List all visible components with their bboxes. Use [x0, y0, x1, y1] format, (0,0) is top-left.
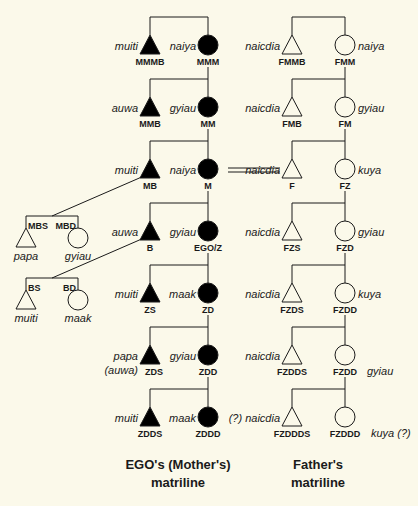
- kin-term: gyiau: [170, 350, 196, 362]
- kin-term: kuya (?): [371, 427, 411, 439]
- kin-term-alt: (auwa): [104, 364, 138, 376]
- kin-term: maak: [65, 312, 92, 324]
- kin-code: ZS: [144, 305, 156, 315]
- kin-code: FZDDDS: [274, 429, 311, 439]
- female-symbol-fm: [335, 97, 355, 117]
- male-symbol-zds: [140, 345, 160, 364]
- kin-code: MBS: [28, 221, 48, 231]
- kin-term: naiya: [170, 40, 196, 52]
- female-symbol-fzdd: [335, 345, 355, 365]
- male-symbol-fmmb: [282, 35, 302, 54]
- kin-term: naiya: [170, 164, 196, 176]
- kin-term: gyiau: [170, 102, 196, 114]
- female-symbol-bd: [68, 290, 88, 310]
- female-symbol-mmm: [198, 35, 218, 55]
- kin-code: FZDD: [333, 367, 357, 377]
- mother-line-caption-2: matriline: [151, 475, 205, 490]
- kin-code: FZ: [340, 181, 351, 191]
- female-symbol-zd: [198, 283, 218, 303]
- male-symbol-fmb: [282, 97, 302, 116]
- kin-term: naicdia: [245, 226, 280, 238]
- kin-code: ZD: [202, 305, 214, 315]
- kin-term: (?) naicdia: [229, 412, 280, 424]
- kin-code: FZD: [336, 243, 354, 253]
- kin-term: papa: [13, 250, 38, 262]
- male-symbol-fzdds: [282, 345, 302, 364]
- kin-code: BD: [63, 283, 76, 293]
- kinship-diagram: muitiMMMBMMMnaiyaauwaMMBMMgyiaumuitiMBMn…: [0, 0, 418, 506]
- kin-term: naiya: [358, 40, 384, 52]
- male-symbol-zdds: [140, 407, 160, 426]
- kin-term: gyiau: [358, 226, 384, 238]
- kin-code: ZDDD: [196, 429, 221, 439]
- kin-term: auwa: [112, 226, 138, 238]
- kin-code: MMMB: [136, 57, 165, 67]
- kin-code: ZDS: [145, 367, 163, 377]
- kin-code: M: [204, 181, 212, 191]
- kin-code: MBD: [56, 221, 77, 231]
- kin-term: gyiau: [65, 250, 91, 262]
- kin-term: gyiau: [367, 365, 393, 377]
- female-symbol-fzdd: [335, 283, 355, 303]
- kin-code: FZDD: [333, 305, 357, 315]
- kin-code: FMM: [335, 57, 356, 67]
- kin-term: muiti: [115, 40, 139, 52]
- kin-code: BS: [28, 283, 41, 293]
- kin-code: FZDS: [280, 305, 304, 315]
- kin-code: MM: [201, 119, 216, 129]
- female-symbol-fz: [335, 159, 355, 179]
- kin-term: muiti: [115, 288, 139, 300]
- female-symbol-zddd: [198, 407, 218, 427]
- female-symbol-m: [198, 159, 218, 179]
- female-symbol-fmm: [335, 35, 355, 55]
- kin-code: MB: [143, 181, 157, 191]
- captions: EGO's (Mother's) matriline Father's matr…: [125, 457, 345, 490]
- kin-term: muiti: [115, 164, 139, 176]
- kin-term: naicdia: [245, 350, 280, 362]
- kin-term: gyiau: [358, 102, 384, 114]
- kin-nodes: muitiMMMBMMMnaiyaauwaMMBMMgyiaumuitiMBMn…: [13, 35, 411, 439]
- female-symbol-ego-z: [198, 221, 218, 241]
- female-symbol-mm: [198, 97, 218, 117]
- kin-term: maak: [169, 288, 196, 300]
- kin-code: FMMB: [279, 57, 306, 67]
- kin-term: naicdia: [245, 288, 280, 300]
- kin-code: ZDDS: [138, 429, 163, 439]
- kin-term: papa: [113, 350, 138, 362]
- kin-code: FZDDD: [330, 429, 361, 439]
- kin-term: kuya: [358, 288, 381, 300]
- kin-term: muiti: [115, 412, 139, 424]
- kin-code: B: [147, 243, 154, 253]
- female-symbol-fzddd: [335, 407, 355, 427]
- kin-term: muiti: [14, 312, 38, 324]
- kin-term: naicdia: [245, 102, 280, 114]
- male-symbol-mmb: [140, 97, 160, 116]
- kin-code: MMM: [197, 57, 220, 67]
- male-symbol-b: [140, 221, 160, 240]
- male-symbol-mmmb: [140, 35, 160, 54]
- female-symbol-fzd: [335, 221, 355, 241]
- kin-term: naicdia: [245, 40, 280, 52]
- cross-link: [52, 176, 144, 216]
- mother-line-caption-1: EGO's (Mother's): [125, 457, 230, 472]
- kin-code: F: [289, 181, 295, 191]
- kin-term: gyiau: [170, 226, 196, 238]
- male-symbol-mb: [140, 159, 160, 178]
- kin-code: FM: [339, 119, 352, 129]
- kin-term: naicdia: [245, 164, 280, 176]
- kin-code: FMB: [282, 119, 302, 129]
- female-symbol-zdd: [198, 345, 218, 365]
- male-symbol-fzds: [282, 283, 302, 302]
- kin-code: MMB: [139, 119, 161, 129]
- male-symbol-f: [282, 159, 302, 178]
- male-symbol-fzddds: [282, 407, 302, 426]
- father-line-caption-1: Father's: [293, 457, 343, 472]
- male-symbol-zs: [140, 283, 160, 302]
- father-line-caption-2: matriline: [291, 475, 345, 490]
- kin-term: auwa: [112, 102, 138, 114]
- kin-code: ZDD: [199, 367, 218, 377]
- kin-code: FZDDS: [277, 367, 307, 377]
- kin-code: EGO/Z: [194, 243, 223, 253]
- female-symbol-mbd: [68, 228, 88, 248]
- kin-term: kuya: [358, 164, 381, 176]
